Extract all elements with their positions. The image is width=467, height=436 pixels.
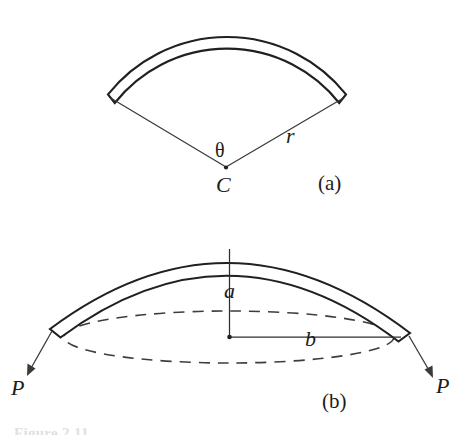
force-arrow-right-head (425, 366, 434, 379)
figure-caption-cropped: Figure 2.11 (14, 424, 89, 435)
panel-a-group: θ r C (a) (108, 37, 346, 197)
force-arrow-left-shaft (30, 331, 52, 370)
panel-caption-a: (a) (318, 171, 341, 195)
base-center-point (227, 335, 232, 340)
base-radius-label-b: b (305, 326, 316, 351)
center-point-c (224, 165, 228, 169)
force-label-left-p: P (10, 375, 24, 400)
panel-caption-b: (b) (322, 389, 347, 413)
rise-label-a: a (224, 278, 235, 303)
figure-container: θ r C (a) (0, 0, 467, 436)
force-arrow-right-shaft (409, 336, 430, 372)
radial-line-left (112, 99, 227, 168)
technical-figure-svg: θ r C (a) (0, 0, 467, 436)
force-arrow-left-head (27, 364, 36, 377)
angle-label-theta: θ (215, 139, 225, 161)
radial-line-right (226, 99, 343, 168)
panel-b-group: a b P P (b) (10, 249, 449, 413)
radius-label-r: r (286, 123, 295, 148)
arch-shell-band (108, 37, 346, 103)
force-label-right-p: P (435, 373, 449, 398)
center-label-c: C (216, 172, 231, 197)
